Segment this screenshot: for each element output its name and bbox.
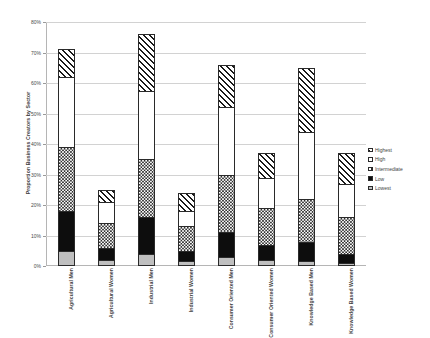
x-axis-label: Industrial Women: [188, 268, 194, 338]
bar-segment-low: [178, 251, 195, 262]
legend-item: Intermediate: [368, 164, 428, 174]
bar-segment-lowest: [58, 251, 75, 266]
bar-segment-intermediate: [58, 147, 75, 211]
legend-swatch-high: [368, 157, 373, 162]
x-axis-label: Consumer Oriented Women: [268, 268, 274, 338]
bar-segment-intermediate: [258, 208, 275, 245]
legend-item: Lowest: [368, 183, 428, 193]
y-axis-tick-label: 10%: [31, 233, 41, 239]
legend-swatch-lowest: [368, 186, 373, 191]
bar-column: [138, 34, 155, 266]
bar-segment-high: [298, 132, 315, 199]
legend-swatch-highest: [368, 148, 373, 153]
bar-segment-low: [338, 254, 355, 263]
bar-segment-intermediate: [338, 217, 355, 254]
bar-segment-highest: [138, 34, 155, 90]
bar-column: [98, 190, 115, 266]
bar-column: [218, 65, 235, 266]
bar-column: [58, 49, 75, 266]
bars-layer: [46, 22, 366, 266]
legend-swatch-low: [368, 176, 373, 181]
bar-segment-low: [298, 242, 315, 262]
bar-segment-highest: [258, 153, 275, 177]
legend-label: Lowest: [375, 185, 391, 191]
bar-segment-highest: [338, 153, 355, 184]
bar-segment-intermediate: [138, 159, 155, 217]
bar-segment-low: [58, 211, 75, 251]
bar-segment-lowest: [258, 260, 275, 266]
bar-column: [298, 68, 315, 266]
bar-segment-intermediate: [298, 199, 315, 242]
bar-segment-lowest: [338, 263, 355, 266]
bar-segment-highest: [178, 193, 195, 211]
legend-label: Low: [375, 176, 384, 182]
y-axis-tick-label: 20%: [31, 202, 41, 208]
x-axis-labels: Agricultural MenAgricultural WomenIndust…: [46, 268, 366, 328]
legend-label: Intermediate: [375, 166, 403, 172]
y-axis-tick-label: 60%: [31, 80, 41, 86]
x-axis-label: Knowledge Based Women: [348, 268, 354, 338]
chart-legend: HighestHighIntermediateLowLowest: [368, 145, 428, 193]
bar-segment-intermediate: [98, 223, 115, 247]
legend-item: Low: [368, 174, 428, 184]
legend-label: High: [375, 156, 385, 162]
bar-segment-lowest: [138, 254, 155, 266]
y-axis-tick-label: 40%: [31, 141, 41, 147]
bar-segment-low: [138, 217, 155, 254]
bar-segment-lowest: [98, 260, 115, 266]
bar-column: [178, 193, 195, 266]
plot-area: 0%10%20%30%40%50%60%70%80%: [46, 22, 366, 266]
bar-segment-lowest: [298, 261, 315, 266]
legend-label: Highest: [375, 147, 392, 153]
bar-segment-highest: [218, 65, 235, 108]
bar-segment-high: [58, 77, 75, 147]
bar-segment-intermediate: [178, 226, 195, 250]
x-axis-label: Agricultural Men: [68, 268, 74, 338]
y-axis-tick-label: 0%: [34, 263, 41, 269]
x-axis-label: Agricultural Women: [108, 268, 114, 338]
bar-segment-highest: [98, 190, 115, 202]
y-axis-tick: [43, 266, 46, 267]
y-axis-tick-label: 80%: [31, 19, 41, 25]
legend-item: High: [368, 155, 428, 165]
y-axis-tick-label: 30%: [31, 172, 41, 178]
bar-segment-high: [338, 184, 355, 218]
bar-segment-highest: [58, 49, 75, 76]
bar-segment-low: [218, 232, 235, 256]
bar-segment-high: [218, 107, 235, 174]
bar-segment-high: [98, 202, 115, 223]
bar-segment-lowest: [218, 257, 235, 266]
bar-segment-high: [258, 178, 275, 209]
x-axis-label: Knowledge Based Men: [308, 268, 314, 338]
bar-segment-high: [138, 91, 155, 160]
y-axis-tick-label: 50%: [31, 111, 41, 117]
bar-segment-intermediate: [218, 175, 235, 233]
bar-column: [338, 153, 355, 266]
y-axis-tick-label: 70%: [31, 50, 41, 56]
bar-column: [258, 153, 275, 266]
bar-segment-lowest: [178, 261, 195, 266]
legend-item: Highest: [368, 145, 428, 155]
x-axis-label: Consumer Oriented Men: [228, 268, 234, 338]
bar-segment-high: [178, 211, 195, 226]
bar-segment-low: [98, 248, 115, 260]
legend-swatch-intermediate: [368, 167, 373, 172]
bar-segment-low: [258, 245, 275, 260]
x-axis-label: Industrial Men: [148, 268, 154, 338]
bar-segment-highest: [298, 68, 315, 132]
